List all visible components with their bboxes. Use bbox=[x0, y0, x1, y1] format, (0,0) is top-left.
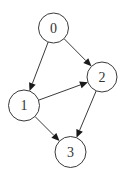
node-1: 1 bbox=[9, 90, 40, 121]
edge-2-to-3 bbox=[76, 91, 96, 138]
node-label: 1 bbox=[21, 98, 28, 113]
edges-group bbox=[29, 39, 96, 141]
directed-graph: 0123 bbox=[0, 0, 122, 178]
edge-0-to-2 bbox=[64, 39, 91, 67]
node-label: 3 bbox=[67, 145, 74, 160]
edge-line bbox=[39, 85, 81, 100]
edge-0-to-1 bbox=[29, 42, 48, 91]
node-2: 2 bbox=[87, 62, 117, 92]
node-0: 0 bbox=[39, 13, 69, 43]
arrowhead-icon bbox=[29, 82, 36, 91]
edge-line bbox=[64, 39, 86, 61]
nodes-group: 0123 bbox=[9, 13, 118, 168]
edge-line bbox=[32, 42, 48, 84]
edge-1-to-2 bbox=[39, 82, 88, 101]
node-label: 2 bbox=[99, 70, 106, 85]
edge-1-to-3 bbox=[35, 116, 60, 141]
node-label: 0 bbox=[50, 21, 57, 36]
arrowhead-icon bbox=[79, 82, 88, 89]
edge-line bbox=[80, 91, 97, 131]
edge-line bbox=[35, 116, 54, 135]
node-3: 3 bbox=[55, 137, 86, 168]
